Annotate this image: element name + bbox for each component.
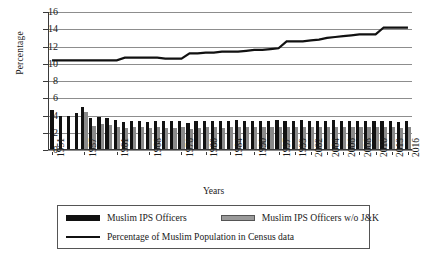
legend-label-2: Percentage of Muslim Population in Censu… bbox=[107, 231, 294, 242]
legend-item-muslim-ips-officers-wo-jk: Muslim IPS Officers w/o J&K bbox=[213, 212, 379, 223]
legend-row-1: Muslim IPS Officers Muslim IPS Officers … bbox=[58, 208, 369, 227]
legend-swatch-gray-bar-icon bbox=[221, 215, 255, 221]
legend-label-0: Muslim IPS Officers bbox=[107, 212, 187, 223]
x-axis-tick-label: 1997 bbox=[282, 138, 292, 157]
legend-swatch-line-icon bbox=[66, 236, 100, 238]
x-axis-tick bbox=[376, 152, 377, 155]
x-axis-tick-label: 1976 bbox=[185, 138, 195, 157]
x-axis-tick bbox=[181, 152, 182, 155]
x-axis-tick-label: 1957 bbox=[88, 138, 98, 157]
legend-swatch-black-bar-icon bbox=[66, 215, 100, 221]
x-axis-tick-label: 2004 bbox=[331, 138, 341, 157]
census-population-line bbox=[48, 12, 412, 150]
x-axis-tick bbox=[84, 152, 85, 155]
x-axis-tick-label: 1999 bbox=[298, 138, 308, 157]
x-axis-tick bbox=[359, 152, 360, 155]
x-axis-tick-label: 1990 bbox=[258, 138, 268, 157]
x-axis-tick-label: 1980 bbox=[209, 138, 219, 157]
x-axis-tick-label: 1951 bbox=[56, 138, 66, 157]
x-axis-tick bbox=[343, 152, 344, 155]
gridline bbox=[48, 150, 412, 151]
x-axis-tick-label: 2013 bbox=[395, 138, 405, 157]
x-axis-tick bbox=[117, 152, 118, 155]
x-axis-tick bbox=[52, 152, 53, 155]
x-axis-tick bbox=[408, 152, 409, 155]
x-axis-tick bbox=[206, 152, 207, 155]
x-axis-tick-label: 1968 bbox=[153, 138, 163, 157]
x-axis-tick bbox=[392, 152, 393, 155]
chart-figure: Percentage 0246810121416 195119571961196… bbox=[0, 0, 427, 264]
y-axis-title: Percentage bbox=[15, 3, 25, 103]
x-axis-tick-label: 2008 bbox=[363, 138, 373, 157]
legend-label-1: Muslim IPS Officers w/o J&K bbox=[262, 212, 379, 223]
x-axis-tick bbox=[149, 152, 150, 155]
x-axis-tick bbox=[254, 152, 255, 155]
legend-item-muslim-population-census: Percentage of Muslim Population in Censu… bbox=[58, 231, 294, 242]
x-axis-tick-label: 1984 bbox=[234, 138, 244, 157]
x-axis-tick bbox=[311, 152, 312, 155]
plot-area: 0246810121416 bbox=[48, 12, 412, 150]
x-axis-tick bbox=[230, 152, 231, 155]
x-axis-tick bbox=[295, 152, 296, 155]
x-axis-tick-label: 1961 bbox=[120, 138, 130, 157]
legend-item-muslim-ips-officers: Muslim IPS Officers bbox=[58, 212, 187, 223]
chart-legend: Muslim IPS Officers Muslim IPS Officers … bbox=[57, 205, 370, 249]
line-series-layer bbox=[48, 12, 412, 150]
x-axis-tick-label: 2002 bbox=[314, 138, 324, 157]
x-axis-tick bbox=[327, 152, 328, 155]
x-axis-tick bbox=[279, 152, 280, 155]
legend-row-2: Percentage of Muslim Population in Censu… bbox=[58, 227, 369, 246]
x-axis-title: Years bbox=[0, 186, 427, 196]
x-axis-tick-label: 2006 bbox=[347, 138, 357, 157]
x-axis-tick-label: 2010 bbox=[379, 138, 389, 157]
x-axis-tick-label: 2016 bbox=[411, 138, 421, 157]
